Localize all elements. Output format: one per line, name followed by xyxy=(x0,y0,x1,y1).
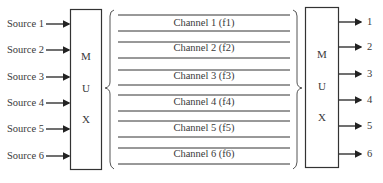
channel-label: Channel 4 (f4) xyxy=(118,96,290,107)
source-label: Source 2 xyxy=(7,44,44,56)
source-arrows xyxy=(46,24,69,156)
output-label: 5 xyxy=(367,120,372,132)
output-label: 4 xyxy=(367,94,372,106)
output-label: 1 xyxy=(367,16,372,28)
channel-label: Channel 5 (f5) xyxy=(118,122,290,133)
source-label: Source 5 xyxy=(7,123,44,135)
right-mux-letter: M xyxy=(316,48,328,60)
output-label: 3 xyxy=(367,68,372,80)
right-brace xyxy=(293,10,302,169)
output-label: 2 xyxy=(367,41,372,53)
left-mux-letter: X xyxy=(80,113,92,125)
output-arrows xyxy=(339,22,361,154)
source-label: Source 4 xyxy=(7,97,44,109)
channel-label: Channel 1 (f1) xyxy=(118,17,290,28)
channel-label: Channel 6 (f6) xyxy=(118,148,290,159)
right-mux-letter: U xyxy=(316,80,328,92)
output-label: 6 xyxy=(367,148,372,160)
channel-lines xyxy=(118,15,290,164)
source-label: Source 6 xyxy=(7,150,44,162)
right-mux-letter: X xyxy=(316,111,328,123)
left-mux-letter: U xyxy=(80,82,92,94)
channel-label: Channel 2 (f2) xyxy=(118,42,290,53)
source-label: Source 1 xyxy=(7,18,44,30)
left-brace xyxy=(105,10,114,169)
channel-label: Channel 3 (f3) xyxy=(118,70,290,81)
left-mux-letter: M xyxy=(80,50,92,62)
source-label: Source 3 xyxy=(7,71,44,83)
